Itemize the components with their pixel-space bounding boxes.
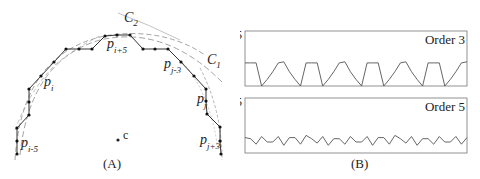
panel-a: C2 C1 pi+5 pj-3 pi pj pi-5 pj+3 c (A): [0, 0, 240, 179]
center-point: [116, 138, 119, 141]
ytick-top-order5: 0.5: [240, 95, 242, 109]
label-p-i-plus-5: pi+5: [106, 36, 128, 55]
contour-point: [204, 87, 207, 90]
panel-b: 0.5 0 Order 3 0.5 0 Order 5 (B): [240, 0, 480, 179]
contour-point: [15, 152, 18, 155]
contour-point: [77, 47, 80, 50]
contour-diagram: C2 C1 pi+5 pj-3 pi pj pi-5 pj+3 c: [0, 0, 240, 179]
label-p-j: pj: [196, 91, 207, 110]
contour-point: [179, 60, 182, 63]
label-p-j-minus-3: pj-3: [163, 56, 181, 75]
contour-point: [219, 152, 222, 155]
contour-point: [27, 87, 30, 90]
contour-point: [52, 60, 55, 63]
contour-point: [15, 126, 18, 129]
label-c1: C1: [207, 52, 221, 70]
label-p-i-minus-5: pi-5: [20, 135, 38, 154]
title-order-3: Order 3: [425, 32, 465, 47]
label-p-j-plus-3: pj+3: [199, 132, 221, 151]
contour-point: [141, 47, 144, 50]
contour-point: [166, 47, 169, 50]
ytick-top-order3: 0.5: [240, 28, 242, 42]
chart-order-3: 0.5 0 Order 3: [240, 28, 467, 92]
contour-point: [128, 33, 131, 36]
label-center: c: [123, 128, 128, 142]
contour-point: [205, 112, 208, 115]
profile-charts: 0.5 0 Order 3 0.5 0 Order 5: [240, 0, 480, 179]
contour-point: [90, 47, 93, 50]
contour-point: [115, 33, 118, 36]
caption-a: (A): [103, 156, 121, 172]
contour-point: [27, 113, 30, 116]
contour-point: [15, 139, 18, 142]
contour-point: [64, 47, 67, 50]
label-p-i: pi: [43, 74, 54, 93]
chart-order-5: 0.5 0 Order 5: [240, 95, 467, 159]
series-order-3: [245, 62, 467, 86]
label-c2: C2: [124, 10, 138, 28]
contour-point: [153, 47, 156, 50]
circle-c2: [15, 34, 205, 160]
contour-point: [27, 100, 30, 103]
contour-point: [218, 125, 221, 128]
caption-b: (B): [351, 156, 368, 172]
series-order-5: [245, 135, 467, 145]
contour-point: [39, 74, 42, 77]
contour-point: [192, 74, 195, 77]
title-order-5: Order 5: [425, 99, 465, 114]
